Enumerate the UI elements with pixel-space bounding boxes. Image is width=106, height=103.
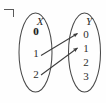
set-x-element-1: 1	[28, 48, 44, 59]
set-y-label: Y	[79, 16, 99, 27]
set-y-element-2: 2	[78, 57, 94, 68]
set-y-element-1: 1	[78, 43, 94, 54]
set-x-element-0: 0	[28, 26, 44, 37]
set-y-element-3: 3	[78, 71, 94, 82]
mapping-diagram-figure: X Y 0 1 2 0 1 2 3	[0, 0, 106, 103]
set-x-element-2: 2	[28, 69, 44, 80]
set-y-element-0: 0	[78, 29, 94, 40]
